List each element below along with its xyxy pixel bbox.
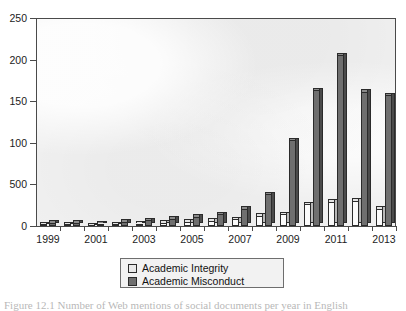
bar-side-face: [56, 220, 59, 223]
bar-front-face: [208, 221, 216, 226]
bar-integrity-2002: [112, 222, 120, 226]
x-axis-tick: [276, 227, 277, 231]
bar-front-face: [97, 224, 105, 226]
bar-top-face: [352, 198, 360, 201]
bar-misconduct-2008: [265, 192, 273, 226]
bar-integrity-2005: [184, 219, 192, 226]
bar-front-face: [352, 201, 360, 226]
bar-misconduct-2003: [145, 218, 153, 226]
bar-top-face: [184, 219, 192, 222]
chart-legend: Academic Integrity Academic Misconduct: [120, 258, 284, 288]
bar-top-face: [193, 214, 201, 217]
bar-front-face: [232, 219, 240, 226]
bar-side-face: [368, 89, 371, 223]
bar-top-face: [241, 206, 249, 209]
bar-side-face: [344, 53, 347, 224]
x-axis-label: 1999: [36, 234, 59, 245]
legend-swatch-icon-integrity: [128, 264, 137, 273]
bar-integrity-2010: [304, 202, 312, 226]
bar-top-face: [49, 220, 57, 223]
y-axis-tick: [30, 143, 37, 144]
bar-top-face: [121, 219, 129, 222]
bar-misconduct-1999: [49, 220, 57, 226]
bar-side-face: [152, 218, 155, 224]
bar-top-face: [337, 53, 345, 56]
bar-misconduct-2001: [97, 221, 105, 226]
bar-top-face: [160, 220, 168, 223]
bar-front-face: [217, 214, 225, 226]
bar-misconduct-2012: [361, 89, 369, 226]
bar-side-face: [200, 214, 203, 223]
y-axis-tick: [30, 101, 37, 102]
bar-integrity-1999: [40, 222, 48, 226]
bar-side-face: [392, 93, 395, 224]
bar-front-face: [136, 224, 144, 226]
x-axis-tick: [156, 227, 157, 231]
bar-top-face: [73, 220, 81, 223]
bar-misconduct-2011: [337, 53, 345, 226]
x-axis-tick: [204, 227, 205, 231]
x-axis-label: 2005: [180, 234, 203, 245]
bar-front-face: [289, 140, 297, 226]
legend-swatch-icon-misconduct: [128, 277, 137, 286]
bar-top-face: [289, 138, 297, 141]
bar-front-face: [337, 55, 345, 226]
bar-front-face: [49, 223, 57, 226]
bar-front-face: [361, 92, 369, 226]
x-axis-label: 2003: [132, 234, 155, 245]
y-axis-label: 200: [9, 55, 27, 66]
legend-label-misconduct: Academic Misconduct: [142, 276, 244, 287]
bar-integrity-2013: [376, 206, 384, 226]
y-axis-label: 250: [9, 13, 27, 24]
bar-front-face: [313, 90, 321, 226]
bar-top-face: [313, 88, 321, 91]
x-axis-tick: [348, 227, 349, 231]
legend-label-integrity: Academic Integrity: [142, 263, 228, 274]
x-axis-label: 2013: [372, 234, 395, 245]
bar-integrity-2006: [208, 218, 216, 226]
bar-front-face: [121, 222, 129, 226]
bar-misconduct-2004: [169, 216, 177, 226]
bar-top-face: [361, 89, 369, 92]
x-axis-tick: [228, 227, 229, 231]
bar-top-face: [328, 199, 336, 202]
x-axis-tick: [132, 227, 133, 231]
bar-side-face: [224, 212, 227, 224]
bar-front-face: [265, 194, 273, 226]
y-axis-label: 500: [9, 179, 27, 190]
bar-integrity-2007: [232, 217, 240, 226]
x-axis-label: 2011: [325, 234, 348, 245]
bar-top-face: [169, 216, 177, 219]
bar-side-face: [104, 221, 107, 223]
bar-integrity-2011: [328, 199, 336, 226]
x-axis-label: 2007: [228, 234, 251, 245]
y-axis-line: [36, 18, 37, 227]
x-axis-tick: [84, 227, 85, 231]
x-axis-tick: [60, 227, 61, 231]
bar-misconduct-2010: [313, 88, 321, 226]
bar-side-face: [80, 220, 83, 223]
bar-top-face: [145, 218, 153, 221]
bar-side-face: [296, 138, 299, 224]
bar-integrity-2003: [136, 221, 144, 226]
bar-front-face: [160, 223, 168, 226]
y-axis-tick: [30, 184, 37, 185]
x-axis-tick: [252, 227, 253, 231]
bar-front-face: [184, 222, 192, 226]
bar-misconduct-2007: [241, 206, 249, 226]
bar-integrity-2009: [280, 212, 288, 226]
bar-top-face: [256, 213, 264, 216]
bar-top-face: [304, 202, 312, 205]
bar-front-face: [193, 217, 201, 226]
bar-front-face: [169, 219, 177, 226]
bar-misconduct-2005: [193, 214, 201, 226]
x-axis-tick: [372, 227, 373, 231]
bar-top-face: [232, 217, 240, 220]
bar-front-face: [73, 223, 81, 226]
x-axis-tick: [396, 227, 397, 231]
bar-side-face: [248, 206, 251, 223]
y-axis-label: 0: [21, 221, 27, 232]
bar-front-face: [328, 202, 336, 226]
x-axis-label: 2009: [276, 234, 299, 245]
